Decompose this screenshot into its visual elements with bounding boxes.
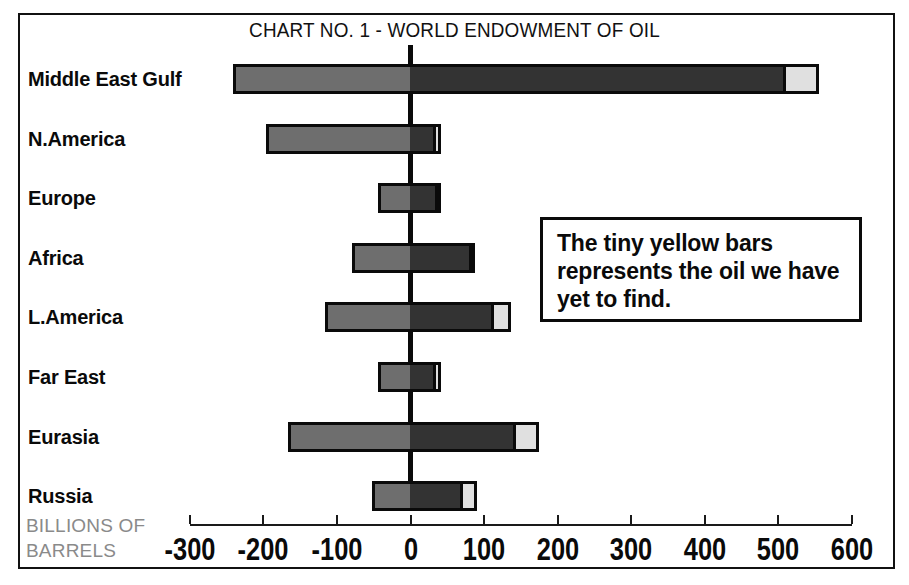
x-axis-tick-label: 600 bbox=[831, 532, 873, 568]
segment-remaining bbox=[410, 305, 491, 329]
segment-produced bbox=[375, 484, 410, 508]
segment-remaining bbox=[410, 67, 782, 91]
segment-produced bbox=[381, 186, 410, 210]
segment-produced bbox=[355, 246, 410, 270]
x-axis-tick-label: 300 bbox=[610, 532, 652, 568]
x-axis-tick-label: -300 bbox=[164, 532, 215, 568]
segment-produced bbox=[236, 67, 411, 91]
axis-caption-line-2: BARRELS bbox=[26, 538, 145, 563]
x-axis-tick-label: 0 bbox=[403, 532, 417, 568]
x-axis-tick bbox=[777, 515, 779, 524]
category-label: Far East bbox=[28, 366, 105, 389]
segment-produced bbox=[291, 425, 410, 449]
x-axis-tick bbox=[189, 515, 191, 524]
x-axis-tick bbox=[410, 515, 412, 524]
bar-row: Eurasia bbox=[0, 415, 909, 459]
bar-row: Russia bbox=[0, 474, 909, 518]
category-label: N.America bbox=[28, 127, 125, 150]
x-axis-tick-label: 100 bbox=[463, 532, 505, 568]
bar-row: Europe bbox=[0, 176, 909, 220]
axis-caption: BILLIONS OF BARRELS bbox=[26, 513, 145, 563]
segment-yet-to-find bbox=[435, 186, 438, 210]
segment-yet-to-find bbox=[491, 305, 507, 329]
bar-row: Far East bbox=[0, 355, 909, 399]
axis-caption-line-1: BILLIONS OF bbox=[26, 513, 145, 538]
stacked-bar bbox=[266, 124, 441, 154]
stacked-bar bbox=[378, 362, 441, 392]
stacked-bar bbox=[233, 64, 819, 94]
bar-row: N.America bbox=[0, 117, 909, 161]
category-label: Middle East Gulf bbox=[28, 68, 181, 91]
stacked-bar bbox=[372, 481, 477, 511]
x-axis-tick bbox=[336, 515, 338, 524]
segment-remaining bbox=[410, 484, 460, 508]
x-axis-tick bbox=[630, 515, 632, 524]
annotation-box: The tiny yellow bars represents the oil … bbox=[540, 217, 862, 322]
x-axis-tick bbox=[704, 515, 706, 524]
x-axis-tick-label: -200 bbox=[238, 532, 289, 568]
x-axis-tick-label: 400 bbox=[683, 532, 725, 568]
segment-yet-to-find bbox=[460, 484, 474, 508]
segment-yet-to-find bbox=[513, 425, 536, 449]
x-axis-tick bbox=[262, 515, 264, 524]
annotation-text: The tiny yellow bars represents the oil … bbox=[557, 229, 847, 313]
category-label: Europe bbox=[28, 187, 96, 210]
x-axis-line bbox=[190, 524, 852, 526]
bar-row: Middle East Gulf bbox=[0, 57, 909, 101]
x-axis-tick-label: 500 bbox=[757, 532, 799, 568]
segment-remaining bbox=[410, 186, 435, 210]
segment-yet-to-find bbox=[469, 246, 473, 270]
x-axis-tick-label: -100 bbox=[311, 532, 362, 568]
category-label: Russia bbox=[28, 485, 92, 508]
segment-remaining bbox=[410, 246, 468, 270]
segment-produced bbox=[269, 127, 411, 151]
x-axis-tick bbox=[483, 515, 485, 524]
stacked-bar bbox=[378, 183, 441, 213]
stacked-bar bbox=[288, 422, 539, 452]
category-label: Africa bbox=[28, 246, 84, 269]
x-axis-tick bbox=[557, 515, 559, 524]
category-label: Eurasia bbox=[28, 425, 99, 448]
segment-produced bbox=[328, 305, 410, 329]
stacked-bar bbox=[325, 302, 510, 332]
segment-produced bbox=[381, 365, 410, 389]
category-label: L.America bbox=[28, 306, 123, 329]
segment-yet-to-find bbox=[783, 67, 816, 91]
chart-page: CHART NO. 1 - WORLD ENDOWMENT OF OIL Mid… bbox=[0, 0, 909, 585]
segment-remaining bbox=[410, 425, 513, 449]
x-axis-tick bbox=[851, 515, 853, 524]
segment-remaining bbox=[410, 365, 432, 389]
segment-yet-to-find bbox=[433, 365, 438, 389]
segment-yet-to-find bbox=[433, 127, 437, 151]
x-axis-tick-label: 200 bbox=[536, 532, 578, 568]
stacked-bar bbox=[352, 243, 475, 273]
segment-remaining bbox=[410, 127, 433, 151]
